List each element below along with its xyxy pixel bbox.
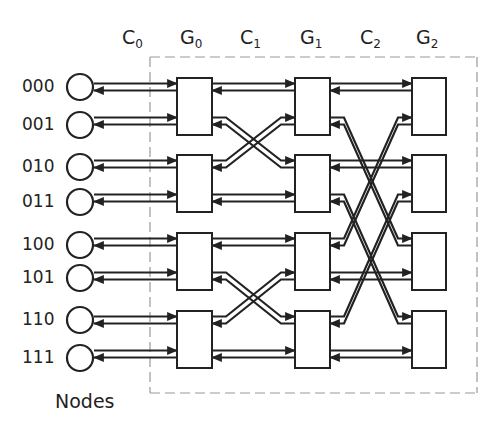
switch-box-g1 [295,233,330,290]
node-circle [67,345,93,371]
switch-box-g1 [295,78,330,135]
channel [330,195,412,317]
switch-box-g0 [177,155,212,212]
switch-box-g2 [412,78,446,135]
switch-box-g2 [412,155,446,212]
node-circle [67,265,93,291]
switch-box-g1 [295,311,330,368]
channel [330,125,412,246]
node-circle [67,307,93,333]
butterfly-network-diagram [0,0,503,428]
channel [330,202,412,324]
node-circle [67,232,93,258]
node-circle [67,154,93,180]
channels [94,84,412,358]
node-circles [67,74,93,371]
switch-box-g0 [177,78,212,135]
node-circle [67,74,93,100]
switch-box-g1 [295,155,330,212]
node-circle [67,112,93,138]
channel [330,118,412,239]
node-circle [67,189,93,215]
switch-box-g0 [177,233,212,290]
switch-box-g0 [177,311,212,368]
switch-box-g2 [412,233,446,290]
switch-box-g2 [412,311,446,368]
